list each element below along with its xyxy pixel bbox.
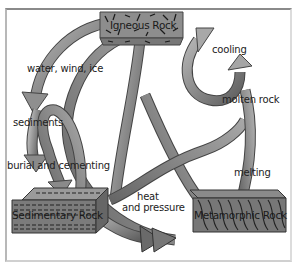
label-and-pressure: and pressure [122,202,185,213]
metamorphic-rock-label: Metamorphic Rock [194,210,287,221]
label-heat: heat [137,191,159,202]
igneous-rock-label: Igneous Rock [110,20,176,31]
label-cooling: cooling [212,44,247,55]
label-sediments: sediments [13,117,63,128]
label-burial-cementing: burial and cementing [7,160,110,171]
sedimentary-rock-label: Sedimentary Rock [12,210,103,221]
rock-cycle-arrows [0,0,298,269]
label-water-wind-ice: water, wind, ice [27,63,103,74]
label-melting: melting [234,167,271,178]
label-molten-rock: molten rock [222,94,279,105]
